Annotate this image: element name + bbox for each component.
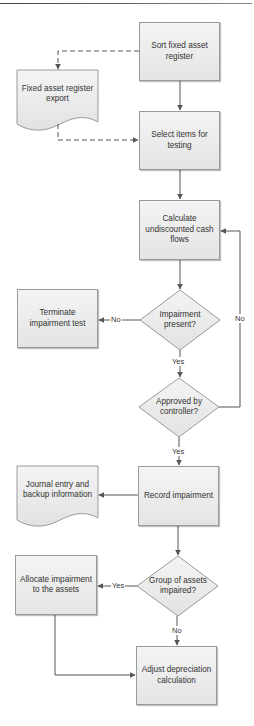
record-impairment-box: Record impairment <box>138 466 219 526</box>
approved-yes-label: Yes <box>171 447 185 456</box>
adjust-depreciation-box: Adjust depreciation calculation <box>136 646 217 705</box>
select-items-box: Select items for testing <box>139 111 220 170</box>
calc-cash-flows-box: Calculate undiscounted cash flows <box>139 200 220 260</box>
impairment-no-label: No <box>110 315 122 324</box>
group-no-label: No <box>171 626 183 635</box>
allocate-impairment-label: Allocate impairment to the assets <box>19 575 93 596</box>
calc-cash-flows-label: Calculate undiscounted cash flows <box>143 214 216 246</box>
allocate-impairment-box: Allocate impairment to the assets <box>15 555 97 615</box>
terminate-test-label: Terminate impairment test <box>21 308 94 329</box>
group-yes-label: Yes <box>111 581 125 590</box>
sort-register-box: Sort fixed asset register <box>139 22 220 81</box>
adjust-depreciation-label: Adjust depreciation calculation <box>140 665 213 686</box>
impairment-present-label: Impairment present? <box>150 308 210 332</box>
sort-register-label: Sort fixed asset register <box>143 41 216 62</box>
register-export-label: Fixed asset register export <box>17 74 98 114</box>
select-items-label: Select items for testing <box>143 130 216 151</box>
journal-entry-label: Journal entry and backup information <box>17 470 98 510</box>
group-impaired-label: Group of assets impaired? <box>145 574 211 598</box>
terminate-test-box: Terminate impairment test <box>17 289 98 348</box>
record-impairment-label: Record impairment <box>144 491 213 502</box>
impairment-yes-label: Yes <box>171 357 185 366</box>
approved-controller-label: Approved by controller? <box>149 395 209 419</box>
approved-no-label: No <box>234 314 246 323</box>
